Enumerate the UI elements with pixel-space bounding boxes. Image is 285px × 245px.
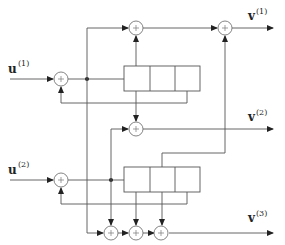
svg-text:v: v [247, 211, 256, 225]
svg-text:u: u [8, 163, 17, 177]
adder-middle [129, 122, 143, 136]
adder-v1 [218, 21, 232, 35]
adder-bottom-3 [154, 226, 168, 240]
adder-bottom-2 [129, 226, 143, 240]
upper-register [124, 66, 200, 91]
adder-top [129, 21, 143, 35]
encoder-diagram: u (1) u (2) v (1) v (2) v (3) [0, 0, 285, 245]
svg-text:(2): (2) [18, 160, 29, 169]
label-u2: u (2) [8, 160, 29, 177]
svg-text:(1): (1) [18, 59, 29, 68]
svg-text:(2): (2) [256, 108, 267, 117]
label-u1: u (1) [8, 59, 29, 76]
adder-bottom-1 [104, 226, 118, 240]
svg-text:v: v [247, 9, 256, 23]
adder-u1 [54, 72, 68, 86]
svg-text:(3): (3) [256, 209, 267, 218]
label-v3: v (3) [247, 209, 267, 225]
svg-text:v: v [247, 110, 256, 124]
lower-register [124, 167, 200, 192]
svg-text:(1): (1) [256, 7, 267, 16]
lower-reg-to-v1-adder [162, 36, 225, 167]
label-v2: v (2) [247, 108, 267, 124]
svg-text:u: u [8, 62, 17, 76]
adder-u2 [54, 173, 68, 187]
label-v1: v (1) [247, 7, 267, 23]
